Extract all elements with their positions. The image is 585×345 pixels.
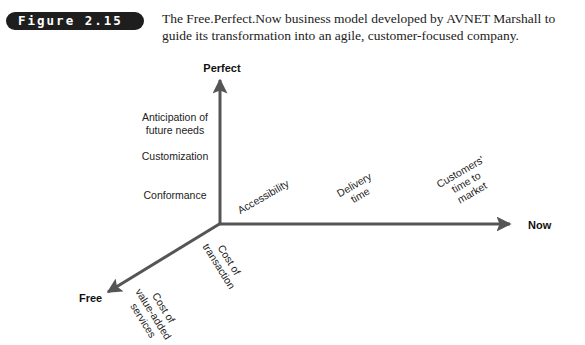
conformance-label: Conformance <box>143 189 206 201</box>
anticipation-label-line2: future needs <box>146 124 204 136</box>
free-axis-label: Free <box>79 292 102 304</box>
accessibility-label: Accessibility <box>235 177 291 216</box>
free-perfect-now-diagram: Perfect Now Free Anticipation of future … <box>0 0 585 345</box>
free-axis-arrow <box>108 223 221 292</box>
customization-label: Customization <box>142 150 209 162</box>
perfect-axis-label: Perfect <box>203 62 241 74</box>
anticipation-label-line1: Anticipation of <box>142 111 208 123</box>
now-axis-label: Now <box>528 219 552 231</box>
